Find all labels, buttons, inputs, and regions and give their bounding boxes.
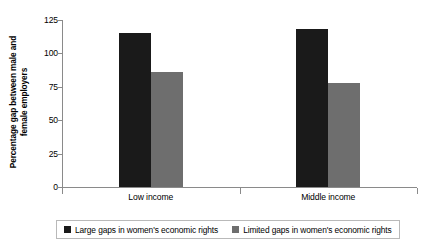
y-axis-tick-labels: 0255075100125 (30, 0, 58, 249)
bar-low-income-series-2 (151, 72, 183, 187)
y-tick-label: 100 (44, 48, 58, 58)
x-tick-mark (240, 188, 241, 194)
x-tick-mark (62, 188, 63, 194)
bar-middle-income-series-2 (328, 83, 360, 187)
x-category-label: Middle income (301, 192, 355, 202)
legend-item-label: Limited gaps in women's economic rights (243, 225, 392, 235)
bar-middle-income-series-1 (296, 29, 328, 187)
legend-item-1[interactable]: Large gaps in women's economic rights (64, 225, 218, 235)
y-tick-label: 125 (44, 15, 58, 25)
y-axis-title-line-2: female employers (18, 36, 29, 168)
bar-chart: Percentage gap between male and female e… (0, 0, 426, 249)
y-axis-title-line-1: Percentage gap between male and (8, 36, 19, 168)
chart-legend: Large gaps in women's economic rightsLim… (56, 220, 400, 239)
x-tick-mark (417, 188, 418, 194)
legend-swatch-icon (64, 226, 71, 233)
legend-item-2[interactable]: Limited gaps in women's economic rights (232, 225, 392, 235)
plot-area (62, 20, 417, 187)
legend-item-label: Large gaps in women's economic rights (75, 225, 218, 235)
legend-swatch-icon (232, 226, 239, 233)
x-category-label: Low income (128, 192, 173, 202)
bar-low-income-series-1 (119, 33, 151, 187)
